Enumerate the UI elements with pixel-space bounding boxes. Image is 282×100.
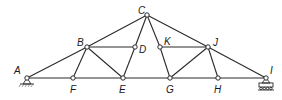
joint-G [168, 76, 172, 80]
truss-joints [25, 13, 268, 80]
member-BF [73, 47, 87, 78]
member-CK [147, 15, 160, 47]
node-label-H: H [214, 84, 222, 95]
node-label-C: C [138, 5, 146, 16]
node-label-G: G [166, 84, 174, 95]
member-DE [123, 47, 135, 78]
member-AB [27, 47, 87, 78]
joint-H [216, 76, 220, 80]
member-CJ [147, 15, 208, 47]
joint-J [206, 45, 210, 49]
joint-E [121, 76, 125, 80]
member-BC [87, 15, 147, 47]
truss-diagram: AFEGHIBDKJC [0, 0, 282, 100]
truss-members [27, 15, 266, 78]
joint-I [264, 76, 268, 80]
node-label-E: E [119, 84, 126, 95]
node-label-J: J [212, 37, 219, 48]
joint-A [25, 76, 29, 80]
node-labels: AFEGHIBDKJC [13, 5, 273, 95]
node-label-D: D [139, 44, 146, 55]
node-label-F: F [70, 84, 77, 95]
joint-B [85, 45, 89, 49]
node-label-I: I [270, 65, 273, 76]
truss-supports [19, 78, 274, 90]
node-label-A: A [13, 65, 21, 76]
node-label-K: K [164, 36, 172, 47]
member-CD [135, 15, 147, 47]
member-JG [170, 47, 208, 78]
joint-K [158, 45, 162, 49]
node-label-B: B [77, 37, 84, 48]
joint-D [133, 45, 137, 49]
member-KG [160, 47, 170, 78]
member-BE [87, 47, 123, 78]
joint-C [145, 13, 149, 17]
joint-F [71, 76, 75, 80]
